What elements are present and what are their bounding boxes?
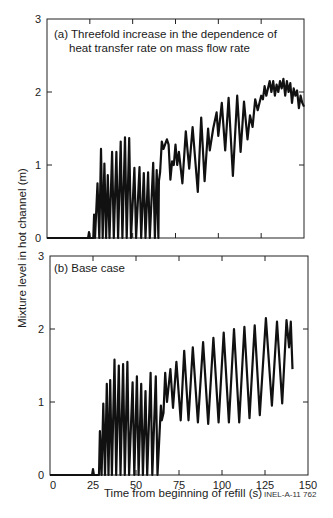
x-tick-label: 25	[87, 479, 99, 491]
panel-b-title: (b) Base case	[54, 262, 125, 274]
y-tick-label: 3	[38, 250, 44, 262]
panel-a-title-line2: heat transfer rate on mass flow rate	[69, 42, 250, 54]
panel-a: 0123 (a) Threefold increase in the depen…	[35, 13, 304, 244]
panel-b-data-line	[50, 318, 293, 475]
chart-figure: 0123 (a) Threefold increase in the depen…	[0, 0, 333, 518]
panel-b: 0123 0255075100125150 (b) Base case	[38, 250, 317, 491]
y-tick-label: 0	[35, 232, 41, 244]
y-tick-label: 2	[38, 323, 44, 335]
y-tick-label: 1	[35, 159, 41, 171]
panel-a-title-line1: (a) Threefold increase in the dependence…	[54, 28, 278, 40]
y-tick-label: 0	[38, 469, 44, 481]
panel-b-y-tick-labels: 0123	[38, 250, 44, 481]
figure-id: INEL-A-11 762	[264, 490, 317, 499]
panel-a-y-tick-labels: 0123	[35, 13, 41, 244]
x-tick-label: 0	[50, 479, 56, 491]
x-axis-label: Time from beginning of refill (s)	[104, 487, 262, 499]
y-tick-label: 3	[35, 13, 41, 25]
panel-a-data-line	[47, 79, 304, 238]
y-axis-label: Mixture level in hot channel (m)	[16, 168, 28, 328]
y-tick-label: 1	[38, 396, 44, 408]
y-tick-label: 2	[35, 86, 41, 98]
